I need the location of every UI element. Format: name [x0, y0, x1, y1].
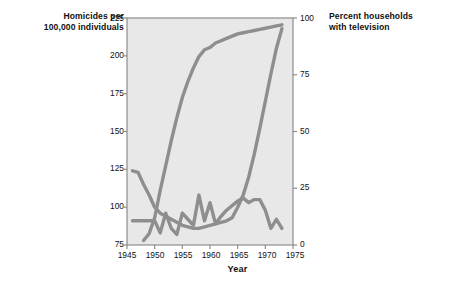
plot-area	[0, 0, 475, 287]
chart-figure: Homicides per 100,000 individuals Percen…	[0, 0, 475, 287]
plot-background	[127, 18, 293, 245]
